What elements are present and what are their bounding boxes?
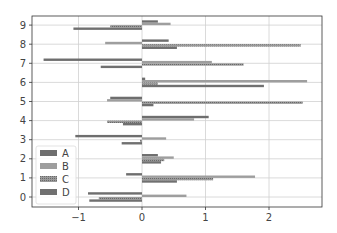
- bar-D-5: [142, 104, 153, 106]
- bar-B-6: [142, 80, 307, 82]
- bar-A-0: [88, 192, 142, 194]
- bar-B-3: [142, 137, 166, 139]
- bar-B-5: [107, 99, 142, 101]
- bar-A-5: [110, 97, 142, 99]
- bar-B-7: [142, 61, 212, 63]
- bar-D-4: [123, 123, 142, 125]
- y-axis: 0123456789: [20, 20, 32, 203]
- y-tick-label: 8: [20, 39, 26, 50]
- x-tick-label: 1: [202, 212, 208, 223]
- legend-label-C: C: [62, 174, 69, 185]
- bar-C-6: [142, 82, 158, 84]
- bar-A-9: [142, 20, 158, 22]
- bar-D-0: [89, 199, 142, 201]
- bars: [44, 20, 308, 201]
- bar-B-9: [142, 23, 171, 25]
- y-tick-label: 4: [20, 115, 26, 126]
- legend-label-B: B: [62, 161, 69, 172]
- x-tick-label: 2: [266, 212, 272, 223]
- bar-B-2: [142, 156, 174, 158]
- bar-D-8: [142, 47, 177, 49]
- y-tick-label: 2: [20, 153, 26, 164]
- bar-D-3: [122, 142, 142, 144]
- bar-D-7: [101, 66, 142, 68]
- bar-D-9: [73, 27, 142, 29]
- bar-C-7: [142, 63, 244, 65]
- bar-B-4: [142, 118, 194, 120]
- bar-D-1: [142, 180, 177, 182]
- bar-A-4: [142, 116, 209, 118]
- y-tick-label: 9: [20, 20, 26, 31]
- y-tick-label: 7: [20, 58, 26, 69]
- bar-C-1: [142, 178, 213, 180]
- bar-A-6: [142, 78, 145, 80]
- bar-D-2: [142, 161, 161, 163]
- bar-chart: −1012 0123456789 ABCD: [0, 0, 337, 233]
- bar-B-1: [142, 176, 255, 178]
- legend-swatch-A: [40, 150, 57, 156]
- legend: ABCD: [36, 146, 76, 204]
- y-tick-label: 0: [20, 192, 26, 203]
- y-tick-label: 1: [20, 172, 26, 183]
- y-tick-label: 5: [20, 96, 26, 107]
- legend-swatch-C: [40, 176, 57, 182]
- x-tick-label: −1: [71, 212, 86, 223]
- legend-label-D: D: [62, 187, 70, 198]
- bar-B-8: [105, 42, 142, 44]
- bar-D-6: [142, 85, 264, 87]
- legend-swatch-B: [40, 163, 57, 169]
- x-tick-label: 0: [139, 212, 145, 223]
- bar-C-8: [142, 44, 301, 46]
- bar-B-0: [142, 195, 186, 197]
- legend-label-A: A: [62, 148, 69, 159]
- bar-C-9: [110, 25, 142, 27]
- y-tick-label: 6: [20, 77, 26, 88]
- bar-C-0: [99, 197, 142, 199]
- x-axis: −1012: [71, 207, 272, 223]
- bar-A-3: [75, 135, 142, 137]
- bar-A-7: [44, 59, 142, 61]
- bar-C-5: [142, 102, 303, 104]
- legend-swatch-D: [40, 189, 57, 195]
- y-tick-label: 3: [20, 134, 26, 145]
- bar-C-2: [142, 159, 164, 161]
- bar-A-1: [126, 173, 142, 175]
- bar-A-2: [142, 154, 158, 156]
- bar-C-3: [140, 140, 142, 142]
- bar-C-4: [107, 121, 142, 123]
- bar-A-8: [142, 39, 169, 41]
